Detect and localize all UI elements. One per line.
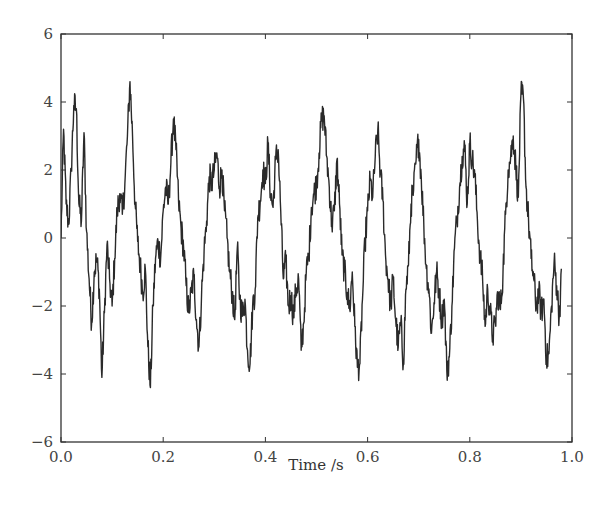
x-tick-label: 0.4 <box>253 448 277 466</box>
y-tick-label: 2 <box>43 161 53 179</box>
x-tick-label: 1.0 <box>560 448 584 466</box>
y-tick-label: −2 <box>31 297 53 315</box>
x-tick-label: 0.6 <box>356 448 380 466</box>
y-axis-tick-labels: −6−4−20246 <box>31 25 53 451</box>
line-chart: 0.00.20.40.60.81.0 −6−4−20246 Time /s <box>0 0 609 508</box>
y-tick-label: −4 <box>31 365 53 383</box>
x-tick-label: 0.2 <box>151 448 175 466</box>
plot-area <box>61 34 572 442</box>
x-tick-label: 0.8 <box>458 448 482 466</box>
x-axis-label: Time /s <box>288 456 343 474</box>
y-tick-label: 6 <box>43 25 53 43</box>
y-tick-label: −6 <box>31 433 53 451</box>
y-tick-label: 4 <box>43 93 53 111</box>
y-tick-label: 0 <box>43 229 53 247</box>
